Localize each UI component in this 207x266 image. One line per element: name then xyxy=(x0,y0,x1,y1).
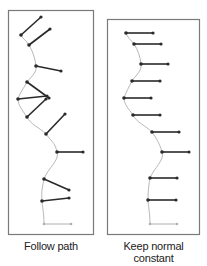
segment-end-dot xyxy=(174,198,177,201)
segment-end-dot xyxy=(158,79,161,82)
diagram-canvas xyxy=(0,0,207,266)
path-point-dot xyxy=(19,33,23,37)
start-end-dot xyxy=(70,223,73,226)
object-segment xyxy=(21,17,41,35)
segment-end-dot xyxy=(67,188,70,191)
path-point-dot xyxy=(139,62,143,66)
keep-normal-constant-panel xyxy=(108,20,200,235)
segment-end-dot xyxy=(59,69,62,72)
segment-end-dot xyxy=(67,196,70,199)
path-point-dot xyxy=(124,31,128,35)
panel-frame xyxy=(9,11,94,235)
segment-end-dot xyxy=(187,150,190,153)
start-end-dot xyxy=(176,223,179,226)
path-point-dot xyxy=(55,150,59,154)
caption-follow-path: Follow path xyxy=(8,240,94,252)
segment-end-dot xyxy=(177,130,180,133)
path-point-dot xyxy=(27,43,31,47)
segment-end-dot xyxy=(175,176,178,179)
panel-frame xyxy=(108,20,200,235)
segment-end-dot xyxy=(44,97,47,100)
path-point-dot xyxy=(148,176,152,180)
object-segment xyxy=(42,198,69,201)
motion-path xyxy=(124,33,163,224)
path-point-dot xyxy=(130,79,134,83)
follow-path-panel xyxy=(9,11,94,235)
object-segment xyxy=(46,114,65,134)
object-segment xyxy=(27,99,46,117)
segment-end-dot xyxy=(149,96,152,99)
segment-end-dot xyxy=(48,27,51,30)
start-point-dot xyxy=(43,223,46,226)
segment-end-dot xyxy=(166,62,169,65)
path-point-dot xyxy=(131,113,135,117)
segment-end-dot xyxy=(81,150,84,153)
segment-end-dot xyxy=(39,15,42,18)
path-point-dot xyxy=(122,96,126,100)
path-point-dot xyxy=(25,80,29,84)
segment-end-dot xyxy=(151,31,154,34)
path-point-dot xyxy=(25,115,29,119)
segment-end-dot xyxy=(159,42,162,45)
object-segment xyxy=(18,96,47,99)
path-point-dot xyxy=(34,64,38,68)
caption-keep-normal-constant: Keep normal constant xyxy=(107,240,200,264)
object-segment xyxy=(29,29,50,45)
path-point-dot xyxy=(146,198,150,202)
path-point-dot xyxy=(40,199,44,203)
path-point-dot xyxy=(44,132,48,136)
path-point-dot xyxy=(16,97,20,101)
path-point-dot xyxy=(42,177,46,181)
segment-end-dot xyxy=(158,113,161,116)
segment-end-dot xyxy=(63,112,66,115)
start-point-dot xyxy=(149,223,152,226)
motion-path xyxy=(18,35,57,224)
path-point-dot xyxy=(160,150,164,154)
segment-end-dot xyxy=(45,94,48,97)
path-point-dot xyxy=(150,130,154,134)
object-segment xyxy=(44,179,69,190)
path-point-dot xyxy=(132,42,136,46)
object-segment xyxy=(36,66,61,71)
